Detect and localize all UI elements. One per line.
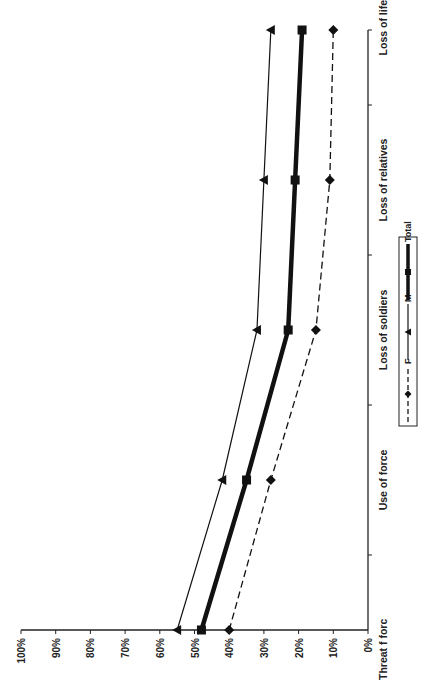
value-tick-label: 100% bbox=[16, 638, 27, 664]
data-point-m bbox=[172, 625, 181, 635]
data-point-f bbox=[266, 475, 276, 485]
value-tick-label: 60% bbox=[155, 638, 166, 658]
data-point-total bbox=[197, 626, 206, 635]
data-point-total bbox=[284, 326, 293, 335]
value-tick-label: 30% bbox=[259, 638, 270, 658]
data-point-f bbox=[325, 175, 335, 185]
value-tick-label: 40% bbox=[224, 638, 235, 658]
category-label: Loss of relatives bbox=[377, 138, 389, 221]
data-point-f bbox=[311, 325, 321, 335]
series-layer bbox=[172, 25, 338, 635]
value-axis-ticks: 0%10%20%30%40%50%60%70%80%90%100% bbox=[16, 630, 374, 664]
category-label: Use of force bbox=[377, 450, 389, 511]
data-point-total bbox=[291, 176, 300, 185]
series-m bbox=[172, 25, 275, 635]
data-point-total bbox=[298, 26, 307, 35]
category-label: Threat f forc bbox=[377, 619, 389, 680]
legend-label: Total bbox=[403, 221, 413, 242]
value-tick-label: 0% bbox=[363, 638, 374, 653]
category-label: Loss of soldiers bbox=[377, 290, 389, 371]
value-tick-label: 90% bbox=[51, 638, 62, 658]
series-total bbox=[197, 26, 307, 635]
category-label: Loss of life bbox=[377, 0, 389, 55]
value-tick-label: 80% bbox=[85, 638, 96, 658]
series-f bbox=[224, 25, 338, 635]
value-tick-label: 70% bbox=[120, 638, 131, 658]
data-point-f bbox=[328, 25, 338, 35]
category-axis-ticks: Threat f forcUse of forceLoss of soldier… bbox=[368, 0, 389, 680]
legend: FMTotal bbox=[399, 221, 417, 426]
chart: 0%10%20%30%40%50%60%70%80%90%100% Threat… bbox=[0, 0, 429, 682]
data-point-total bbox=[242, 476, 251, 485]
value-tick-label: 10% bbox=[328, 638, 339, 658]
value-tick-label: 50% bbox=[190, 638, 201, 658]
legend-marker-square bbox=[405, 269, 411, 275]
value-tick-label: 20% bbox=[294, 638, 305, 658]
